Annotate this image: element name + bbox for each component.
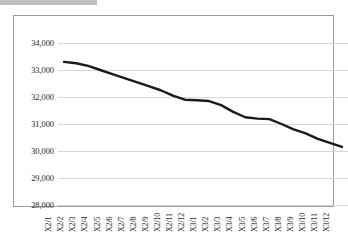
y-axis-tick-label: 31,000 xyxy=(31,119,54,129)
x-axis-tick-label: X2/10 xyxy=(153,213,162,232)
x-axis-tick-label: X2/1 xyxy=(44,217,53,232)
scan-artifact xyxy=(0,0,97,5)
x-axis-tick-label: X3/6 xyxy=(250,217,259,232)
x-axis-tick-label: X3/2 xyxy=(201,217,210,232)
plot-area: 34,00033,00032,00031,00030,00029,00028,0… xyxy=(58,43,348,205)
x-axis-tick-label: X2/12 xyxy=(177,213,186,232)
y-axis-tick-label: 32,000 xyxy=(31,92,54,102)
x-axis-tick-label: X3/12 xyxy=(322,213,331,232)
x-axis-tick-label: X3/11 xyxy=(310,213,319,232)
x-axis-tick-label: X2/8 xyxy=(129,217,138,232)
x-axis-tick-label: X3/7 xyxy=(262,217,271,232)
x-axis-tick-label: X3/9 xyxy=(286,217,295,232)
x-axis-tick-label: X2/7 xyxy=(117,217,126,232)
x-axis-tick-label: X2/4 xyxy=(80,217,89,232)
line-series xyxy=(58,43,348,205)
x-axis-tick-label: X2/2 xyxy=(56,217,65,232)
chart-plot-frame: 34,00033,00032,00031,00030,00029,00028,0… xyxy=(13,15,334,207)
y-axis-tick-label: 34,000 xyxy=(31,38,54,48)
x-axis-tick-label: X3/10 xyxy=(298,213,307,232)
x-axis-tick-label: X3/8 xyxy=(274,217,283,232)
x-axis-tick-label: X2/11 xyxy=(165,213,174,232)
x-axis-tick-label: X2/5 xyxy=(93,217,102,232)
series-polyline xyxy=(64,62,342,147)
x-axis-tick-label: X2/9 xyxy=(141,217,150,232)
x-axis-labels: X2/1X2/2X2/3X2/4X2/5X2/6X2/7X2/8X2/9X2/1… xyxy=(44,190,334,232)
x-axis-tick-label: X3/5 xyxy=(238,217,247,232)
y-axis-tick-label: 30,000 xyxy=(31,146,54,156)
x-axis-tick-label: X3/3 xyxy=(213,217,222,232)
y-axis-tick-label: 29,000 xyxy=(31,173,54,183)
y-axis-tick-label: 33,000 xyxy=(31,65,54,75)
x-axis-tick-label: X2/3 xyxy=(68,217,77,232)
x-axis-tick-label: X3/4 xyxy=(225,217,234,232)
x-axis-tick-label: X2/6 xyxy=(105,217,114,232)
x-axis-tick-label: X3/1 xyxy=(189,217,198,232)
